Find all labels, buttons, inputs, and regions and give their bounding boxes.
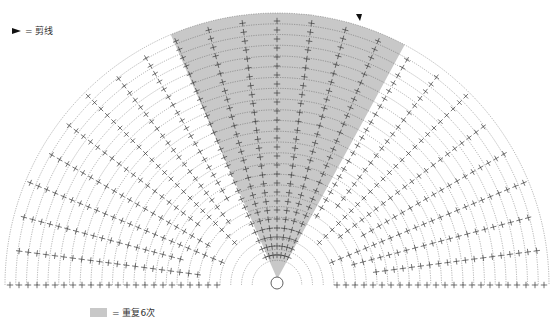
cut-yarn-marker	[356, 14, 362, 21]
crochet-chart	[0, 0, 554, 318]
legend-cut-yarn-label: = 剪线	[25, 24, 53, 37]
stitch-column	[334, 282, 547, 288]
arrow-icon	[12, 28, 21, 34]
legend-repeat-label: = 重复6次	[112, 306, 155, 318]
stitch-column	[7, 282, 220, 288]
shade-swatch	[90, 308, 107, 317]
stitch-column	[373, 248, 540, 275]
stitch-column	[338, 124, 486, 239]
legend-repeat: = 重复6次	[90, 306, 155, 318]
repeat-sector	[171, 13, 405, 279]
magic-ring	[271, 277, 283, 289]
stitch-column	[67, 123, 201, 227]
stitch-column	[16, 248, 201, 278]
legend-cut-yarn: = 剪线	[12, 24, 53, 37]
stitch-column	[361, 151, 507, 238]
stitch-column	[351, 215, 531, 268]
